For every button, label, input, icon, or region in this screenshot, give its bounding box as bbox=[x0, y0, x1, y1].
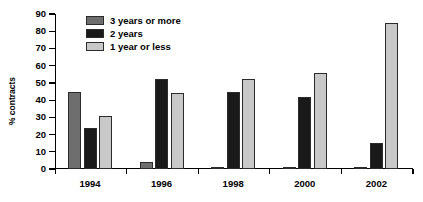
legend-swatch-icon bbox=[86, 16, 104, 25]
y-axis-tick-label: 20 bbox=[35, 130, 46, 140]
y-axis-tick: 10 bbox=[49, 151, 55, 152]
y-axis-tick-label: 90 bbox=[35, 9, 46, 19]
y-axis-tick: 70 bbox=[49, 48, 55, 49]
y-axis-tick: 40 bbox=[49, 100, 55, 101]
legend-item-label: 2 years bbox=[110, 29, 143, 39]
y-axis-tick-label: 50 bbox=[35, 78, 46, 88]
x-axis-separator-tick bbox=[341, 169, 342, 174]
bar bbox=[385, 23, 398, 169]
x-axis-separator-tick bbox=[126, 169, 127, 174]
y-axis-tick-label: 60 bbox=[35, 61, 46, 71]
y-axis-tick: 60 bbox=[49, 65, 55, 66]
y-axis-tick: 90 bbox=[49, 13, 55, 14]
x-axis-separator-tick bbox=[55, 169, 56, 174]
bar bbox=[99, 116, 112, 169]
y-axis-tick-label: 10 bbox=[35, 147, 46, 157]
x-axis-tick-label: 1996 bbox=[151, 178, 172, 189]
bar bbox=[140, 162, 153, 169]
legend-item-label: 1 year or less bbox=[110, 42, 171, 52]
bar bbox=[314, 73, 327, 169]
y-axis-line bbox=[55, 14, 56, 169]
bar bbox=[283, 167, 296, 169]
legend-swatch-icon bbox=[86, 42, 104, 51]
x-axis-tick-label: 2002 bbox=[366, 178, 387, 189]
bar bbox=[211, 167, 224, 169]
y-axis-tick: 80 bbox=[49, 31, 55, 32]
legend-swatch-icon bbox=[86, 29, 104, 38]
legend-item: 1 year or less bbox=[86, 40, 181, 53]
legend-item: 3 years or more bbox=[86, 14, 181, 27]
x-axis-tick-label: 1998 bbox=[223, 178, 244, 189]
bar bbox=[84, 128, 97, 169]
y-axis-tick-label: 80 bbox=[35, 26, 46, 36]
y-axis-title: % contracts bbox=[7, 61, 17, 141]
x-axis-tick-label: 1994 bbox=[79, 178, 100, 189]
bar bbox=[227, 92, 240, 170]
y-axis-tick-label: 0 bbox=[41, 164, 46, 174]
y-axis-tick-label: 30 bbox=[35, 113, 46, 123]
y-axis-tick-label: 70 bbox=[35, 44, 46, 54]
y-axis-tick: 30 bbox=[49, 117, 55, 118]
y-axis-tick: 20 bbox=[49, 134, 55, 135]
bar bbox=[370, 143, 383, 169]
bar bbox=[171, 93, 184, 169]
bar bbox=[242, 79, 255, 169]
legend-item-label: 3 years or more bbox=[110, 16, 181, 26]
chart-legend: 3 years or more2 years1 year or less bbox=[86, 14, 181, 53]
bar-chart-figure: % contracts 0102030405060708090199419961… bbox=[0, 0, 423, 202]
legend-item: 2 years bbox=[86, 27, 181, 40]
y-axis-tick: 50 bbox=[49, 82, 55, 83]
x-axis-separator-tick bbox=[412, 169, 413, 174]
y-axis-tick-label: 40 bbox=[35, 95, 46, 105]
bar bbox=[155, 79, 168, 169]
bar bbox=[68, 92, 81, 170]
bar bbox=[354, 167, 367, 169]
x-axis-separator-tick bbox=[269, 169, 270, 174]
x-axis-separator-tick bbox=[198, 169, 199, 174]
bar bbox=[298, 97, 311, 169]
x-axis-tick-label: 2000 bbox=[294, 178, 315, 189]
